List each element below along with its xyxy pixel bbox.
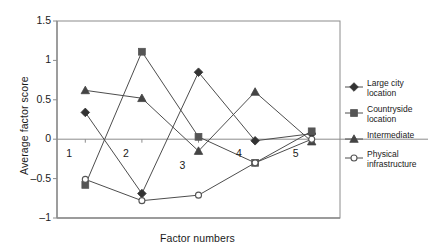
x-axis-category-label: 4 bbox=[236, 147, 242, 159]
filled-diamond-icon bbox=[344, 79, 364, 91]
y-axis-tick-label: 0.5 bbox=[36, 93, 51, 105]
legend-label-line: Countryside bbox=[367, 104, 412, 114]
data-point-marker bbox=[81, 86, 89, 94]
y-axis-tick-label: 0 bbox=[45, 132, 51, 144]
x-axis-category-label: 2 bbox=[123, 147, 129, 159]
data-point-marker bbox=[351, 110, 358, 117]
legend-item-2: Countrysidelocation bbox=[344, 104, 428, 124]
x-axis-category-label: 3 bbox=[180, 159, 186, 171]
legend-label-line: Physical bbox=[367, 149, 417, 159]
x-axis-category-label: 1 bbox=[66, 147, 72, 159]
data-point-marker bbox=[350, 83, 359, 92]
data-point-marker bbox=[308, 128, 315, 135]
legend-label-line: Large city bbox=[367, 78, 404, 88]
plot-frame bbox=[57, 21, 340, 218]
data-point-marker bbox=[82, 176, 88, 182]
legend-label: Countrysidelocation bbox=[364, 104, 412, 124]
data-point-marker bbox=[252, 160, 258, 166]
chart-container: Average factor score Factor numbers –1–0… bbox=[0, 0, 428, 252]
legend-label-line: location bbox=[367, 88, 404, 98]
chart-legend: Large citylocationCountrysidelocationInt… bbox=[344, 78, 428, 175]
series-1 bbox=[81, 68, 316, 198]
legend-label-line: location bbox=[367, 114, 412, 124]
legend-label: Physicalinfrastructure bbox=[364, 149, 417, 169]
y-axis-tick-label: 1 bbox=[45, 53, 51, 65]
legend-label: Intermediate bbox=[364, 130, 414, 140]
legend-item-4: Physicalinfrastructure bbox=[344, 149, 428, 169]
x-axis-category-label: 5 bbox=[293, 147, 299, 159]
series-3 bbox=[81, 86, 316, 154]
data-point-marker bbox=[139, 198, 145, 204]
data-point-marker bbox=[251, 88, 259, 96]
data-point-marker bbox=[309, 136, 315, 142]
data-point-marker bbox=[138, 189, 147, 198]
legend-item-3: Intermediate bbox=[344, 130, 428, 143]
data-point-marker bbox=[195, 133, 202, 140]
data-point-marker bbox=[139, 48, 146, 55]
legend-label-line: Intermediate bbox=[367, 130, 414, 140]
y-axis-tick-label: 1.5 bbox=[36, 14, 51, 26]
y-axis-tick-label: –1 bbox=[39, 211, 51, 223]
series-line bbox=[85, 72, 311, 193]
data-point-marker bbox=[81, 108, 90, 117]
legend-label-line: infrastructure bbox=[367, 159, 417, 169]
legend-label: Large citylocation bbox=[364, 78, 404, 98]
data-point-marker bbox=[196, 192, 202, 198]
open-circle-icon bbox=[344, 150, 364, 162]
legend-item-1: Large citylocation bbox=[344, 78, 428, 98]
filled-triangle-icon bbox=[344, 131, 364, 143]
y-axis-tick-label: –0.5 bbox=[31, 172, 51, 184]
data-point-marker bbox=[351, 155, 357, 161]
filled-square-icon bbox=[344, 105, 364, 117]
